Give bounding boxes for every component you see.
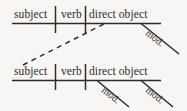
upper-slot-verb-label: verb	[61, 8, 82, 20]
lower-slot-subject-label: subject	[14, 65, 47, 77]
upper-slot-subject-label: subject	[14, 8, 47, 20]
upper-slot-direct-object-label: direct object	[89, 8, 147, 20]
clause-connector-dashed	[23, 24, 105, 66]
lower-slot-direct-object-label: direct object	[89, 65, 147, 77]
sentence-diagram-figure: subject verb direct object mod. subject …	[0, 0, 187, 111]
lower-slot-verb-label: verb	[61, 65, 82, 77]
